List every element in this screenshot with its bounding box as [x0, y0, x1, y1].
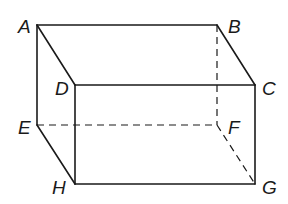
solid-edges — [37, 25, 255, 184]
edge-ad — [37, 25, 75, 85]
prism-diagram: A B C D E F G H — [0, 0, 288, 204]
vertex-label-d: D — [55, 78, 69, 99]
hidden-edges — [37, 25, 255, 184]
vertex-label-b: B — [228, 16, 241, 37]
edge-eh — [37, 125, 75, 184]
prism-svg: A B C D E F G H — [0, 0, 288, 204]
vertex-labels: A B C D E F G H — [17, 16, 277, 198]
vertex-label-e: E — [18, 117, 31, 138]
vertex-label-f: F — [228, 117, 241, 138]
vertex-label-g: G — [262, 177, 277, 198]
vertex-label-a: A — [17, 16, 31, 37]
vertex-label-h: H — [52, 177, 66, 198]
vertex-label-c: C — [262, 78, 276, 99]
